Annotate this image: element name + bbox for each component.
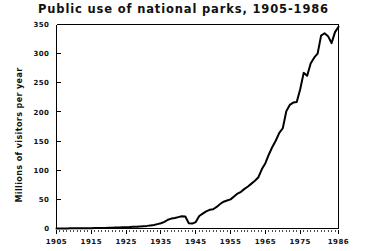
- chart-figure: Public use of national parks, 1905-1986 …: [0, 0, 367, 251]
- y-tick-label: 100: [33, 167, 49, 175]
- data-series-line: [57, 27, 339, 229]
- x-tick-label: 1955: [220, 238, 241, 246]
- x-tick-label: 1915: [81, 238, 102, 246]
- x-tick-label: 1975: [289, 238, 310, 246]
- x-tick-group: 190519151925193519451955196519751986: [46, 230, 349, 246]
- axis-lines: [57, 25, 339, 229]
- x-tick-label: 1935: [150, 238, 171, 246]
- x-tick-label: 1965: [255, 238, 276, 246]
- y-tick-label: 200: [33, 109, 49, 117]
- x-tick-label: 1905: [46, 238, 67, 246]
- x-tick-label: 1925: [115, 238, 136, 246]
- y-tick-label: 50: [39, 196, 50, 204]
- x-tick-label: 1986: [328, 238, 349, 246]
- x-tick-label: 1945: [185, 238, 206, 246]
- y-tick-label: 300: [33, 50, 49, 58]
- y-tick-label: 250: [33, 79, 49, 87]
- y-tick-label: 350: [33, 21, 49, 29]
- plot-area: 050100150200250300350 190519151925193519…: [0, 0, 367, 251]
- y-tick-label: 0: [44, 225, 49, 233]
- y-tick-label: 150: [33, 138, 49, 146]
